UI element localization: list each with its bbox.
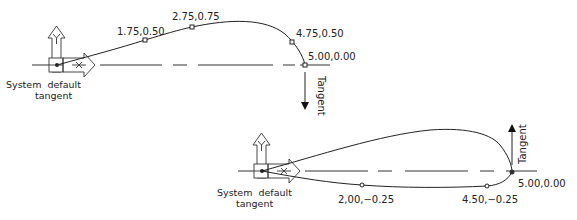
fit-point xyxy=(360,183,364,187)
point-label: 4.75,0.50 xyxy=(296,28,344,39)
fit-point xyxy=(143,38,147,42)
tangent-label: Tangent xyxy=(316,75,327,116)
caption: System default xyxy=(217,187,292,198)
tangent-label: Tangent xyxy=(517,124,528,165)
ucs-icon xyxy=(48,26,95,77)
bottom-spline-upper xyxy=(262,129,512,172)
fit-point xyxy=(190,25,194,29)
caption: System default xyxy=(6,79,81,90)
point-label: 5.00,0.00 xyxy=(308,51,356,62)
fit-point xyxy=(485,184,489,188)
fit-point xyxy=(510,170,515,175)
point-label: 4.50,−0.25 xyxy=(462,194,518,205)
caption: tangent xyxy=(236,198,273,209)
fit-point xyxy=(290,40,294,44)
bottom-diagram: 2,00,−0.25 4.50,−0.25 5.00,0.00 Tangent … xyxy=(217,124,566,209)
ucs-icon xyxy=(253,133,300,183)
fit-point xyxy=(303,63,307,67)
point-label: 2,00,−0.25 xyxy=(338,194,394,205)
point-label: 1.75,0.50 xyxy=(117,26,165,37)
spline-tangent-diagram: 1.75,0.50 2.75,0.75 4.75,0.50 5.00,0.00 … xyxy=(0,0,577,220)
bottom-spline-lower xyxy=(262,171,512,187)
top-spline-curve xyxy=(57,21,305,65)
point-label: 2.75,0.75 xyxy=(172,11,220,22)
point-label: 5.00,0.00 xyxy=(518,178,566,189)
top-diagram: 1.75,0.50 2.75,0.75 4.75,0.50 5.00,0.00 … xyxy=(6,11,356,116)
caption: tangent xyxy=(35,90,72,101)
